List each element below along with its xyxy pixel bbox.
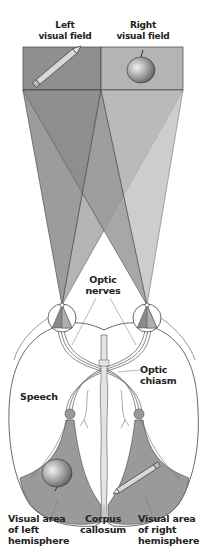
lgn-left (65, 409, 75, 419)
right-eye (133, 303, 161, 332)
lgn-right (134, 409, 144, 419)
visual-field-panel (23, 47, 183, 90)
chiasm-midline-block (99, 360, 109, 366)
corpus-callosum-label: Corpus callosum (78, 513, 128, 535)
left-eye (48, 303, 76, 332)
visual-area-left-label: Visual area of left hemisphere (8, 513, 72, 546)
left-visual-field-label: Left visual field (37, 20, 93, 42)
optic-nerves-label: Optic nerves (78, 274, 128, 296)
speech-label: Speech (20, 391, 70, 402)
visual-area-right-label: Visual area of right hemisphere (138, 513, 206, 546)
optic-chiasm-label: Optic chiasm (140, 364, 190, 386)
right-visual-field-label: Right visual field (114, 20, 172, 42)
light-cones (23, 90, 183, 305)
